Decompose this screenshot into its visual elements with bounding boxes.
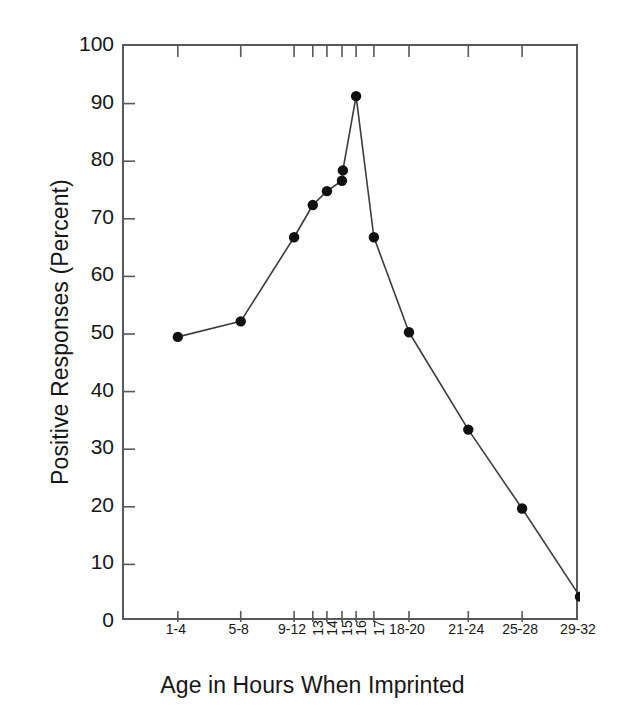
data-point-marker: [404, 327, 414, 337]
y-axis-tick-label: 0: [58, 609, 114, 630]
data-point-marker: [236, 316, 246, 326]
x-axis-tick-label: 16: [354, 620, 368, 636]
y-axis-tick-label: 50: [58, 321, 114, 342]
x-axis-tick-label: 5-8: [229, 622, 249, 636]
x-axis-title: Age in Hours When Imprinted: [0, 672, 625, 699]
data-point-marker: [575, 591, 580, 601]
y-axis-tick-label: 40: [58, 379, 114, 400]
data-point-marker: [369, 232, 379, 242]
y-axis-tick-label: 60: [58, 263, 114, 284]
data-point-marker: [337, 176, 347, 186]
data-point-markers: [173, 91, 580, 602]
data-point-marker: [289, 232, 299, 242]
data-line: [178, 96, 580, 597]
y-axis-tick-label: 90: [58, 91, 114, 112]
x-axis-tick-label: 29-32: [560, 622, 596, 636]
y-axis-tick-label: 100: [58, 33, 114, 54]
data-point-marker: [322, 186, 332, 196]
y-axis-tick-label: 70: [58, 206, 114, 227]
x-axis-tick-label: 25-28: [502, 622, 538, 636]
x-axis-tick-label: 9-12: [278, 622, 306, 636]
x-axis-tick-label: 14: [325, 620, 339, 636]
x-axis-tick-label: 21-24: [448, 622, 484, 636]
line-chart-canvas: [124, 46, 580, 622]
data-point-marker: [338, 165, 348, 175]
x-axis-tick-label: 1-4: [166, 622, 186, 636]
chart-figure: Positive Responses (Percent) 01020304050…: [0, 0, 625, 724]
data-point-marker: [308, 200, 318, 210]
y-axis-tick-label: 80: [58, 148, 114, 169]
y-axis-ticks: [124, 104, 135, 565]
data-point-marker: [351, 91, 361, 101]
x-axis-tick-label: 17: [372, 620, 386, 636]
y-axis-tick-label: 10: [58, 551, 114, 572]
x-axis-tick-labels: 1-45-89-12131415161718-2021-2425-2829-32: [122, 622, 578, 668]
x-axis-tick-label: 15: [340, 620, 354, 636]
plot-area: [122, 44, 578, 620]
data-point-marker: [173, 332, 183, 342]
data-point-marker: [517, 503, 527, 513]
y-axis-tick-label: 20: [58, 494, 114, 515]
x-axis-tick-label: 18-20: [389, 622, 425, 636]
y-axis-tick-labels: 0102030405060708090100: [58, 0, 114, 724]
y-axis-tick-label: 30: [58, 436, 114, 457]
x-axis-tick-label: 13: [311, 620, 325, 636]
data-point-marker: [463, 424, 473, 434]
